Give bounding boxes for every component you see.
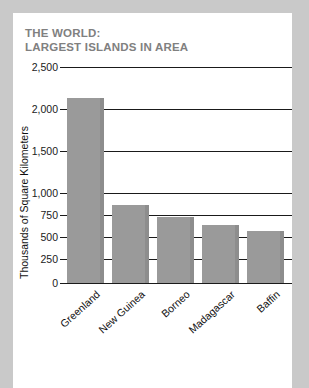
x-axis-tick-label: Baffin <box>254 288 282 315</box>
y-axis-tick-label: 2,500 <box>32 61 58 73</box>
y-axis-tick <box>60 215 67 216</box>
bar[interactable] <box>67 98 104 283</box>
y-axis-tick <box>60 193 67 194</box>
plot-area: 2,5002,0001,5001,0007505002500GreenlandN… <box>67 67 292 283</box>
x-axis-tick-label: Madagascar <box>186 288 237 336</box>
y-axis-tick-label: 750 <box>40 209 58 221</box>
bar[interactable] <box>202 225 239 283</box>
y-axis-tick <box>60 151 67 152</box>
chart-title-line-2: LARGEST ISLANDS IN AREA <box>25 40 280 54</box>
x-axis-tick-label: Borneo <box>158 288 191 320</box>
bar[interactable] <box>247 231 284 283</box>
gridline <box>67 67 292 68</box>
y-axis-tick <box>60 283 67 284</box>
chart-page: THE WORLD: LARGEST ISLANDS IN AREA Thous… <box>0 0 309 388</box>
y-axis-tick-label: 1,000 <box>32 187 58 199</box>
bar[interactable] <box>157 217 194 283</box>
y-axis-tick-label: 1,500 <box>32 145 58 157</box>
y-axis-tick <box>60 237 67 238</box>
x-axis-tick-label: Greenland <box>57 288 101 330</box>
y-axis-tick <box>60 109 67 110</box>
y-axis-title-text: Thousands of Square Kilometers <box>18 126 30 279</box>
y-axis-tick <box>60 259 67 260</box>
x-axis-tick-label: New Guinea <box>96 288 147 336</box>
y-axis-tick-label: 250 <box>40 253 58 265</box>
y-axis-tick-label: 0 <box>52 277 58 289</box>
chart-card: THE WORLD: LARGEST ISLANDS IN AREA Thous… <box>13 13 292 388</box>
y-axis-tick-label: 2,000 <box>32 103 58 115</box>
y-axis-tick <box>60 67 67 68</box>
chart-title-line-1: THE WORLD: <box>25 26 280 40</box>
y-axis-title: Thousands of Square Kilometers <box>17 75 33 279</box>
y-axis-tick-label: 500 <box>40 231 58 243</box>
gridline <box>67 283 292 284</box>
bar[interactable] <box>112 205 149 283</box>
chart-title: THE WORLD: LARGEST ISLANDS IN AREA <box>25 26 280 54</box>
